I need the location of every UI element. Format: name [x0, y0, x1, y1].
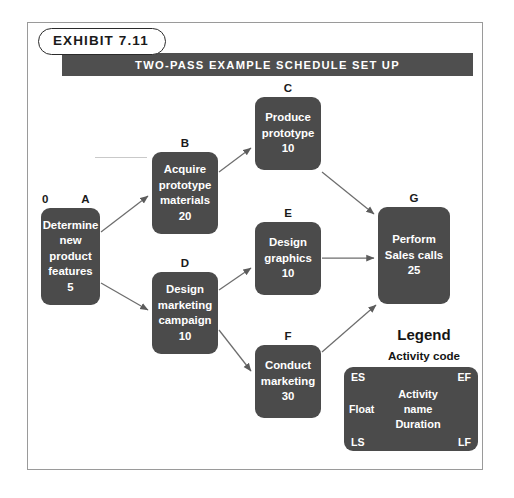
- node-b-name-line-3: materials: [160, 193, 210, 209]
- node-f-name-line-2: marketing: [261, 374, 315, 390]
- legend-center-line-3: Duration: [395, 417, 440, 432]
- node-a-name-line-4: features: [48, 264, 92, 280]
- node-a-es-label: 0: [42, 193, 48, 205]
- node-g-name-line-2: Sales calls: [385, 248, 443, 264]
- node-a-code: A: [56, 193, 115, 205]
- node-c-name-line-2: prototype: [262, 126, 315, 142]
- node-g-duration: 25: [408, 263, 421, 279]
- legend-title: Legend: [368, 326, 480, 343]
- node-c-name-line-1: Produce: [265, 110, 311, 126]
- node-e-name-line-1: Design: [269, 235, 307, 251]
- node-b[interactable]: Acquire prototype materials 20: [152, 152, 218, 234]
- node-a-name-line-1: Determine: [43, 218, 99, 234]
- exhibit-page: EXHIBIT 7.11 TWO-PASS EXAMPLE SCHEDULE S…: [0, 0, 514, 498]
- edge-d-f: [219, 330, 251, 371]
- node-f-name-line-1: Conduct: [265, 358, 311, 374]
- node-g-name-line-1: Perform: [392, 232, 436, 248]
- exhibit-title-bar: TWO-PASS EXAMPLE SCHEDULE SET UP: [62, 53, 473, 76]
- node-f[interactable]: Conduct marketing 30: [255, 345, 321, 418]
- node-d-code: D: [152, 257, 218, 269]
- legend-center-text: Activity name Duration: [344, 367, 478, 451]
- node-g[interactable]: Perform Sales calls 25: [378, 207, 450, 304]
- node-b-code: B: [152, 137, 218, 149]
- exhibit-number-pill: EXHIBIT 7.11: [38, 28, 166, 55]
- exhibit-title: TWO-PASS EXAMPLE SCHEDULE SET UP: [135, 59, 400, 71]
- node-d[interactable]: Design marketing campaign 10: [152, 272, 218, 354]
- node-a[interactable]: Determine new product features 5: [41, 208, 100, 305]
- node-d-duration: 10: [179, 329, 192, 345]
- node-b-name-line-2: prototype: [159, 178, 212, 194]
- node-d-name-line-3: campaign: [158, 313, 211, 329]
- legend-activity-box: ES EF Float LS LF Activity name Duration: [344, 367, 478, 451]
- node-a-duration: 5: [67, 280, 73, 296]
- node-f-code: F: [255, 330, 321, 342]
- edge-d-e: [219, 268, 251, 290]
- node-e-duration: 10: [282, 266, 295, 282]
- node-b-duration: 20: [179, 209, 192, 225]
- stray-rule: [95, 157, 147, 158]
- node-c[interactable]: Produce prototype 10: [255, 97, 321, 170]
- node-b-name-line-1: Acquire: [164, 162, 206, 178]
- node-g-code: G: [378, 192, 450, 204]
- legend-center-line-2: name: [404, 402, 433, 417]
- node-e[interactable]: Design graphics 10: [255, 222, 321, 295]
- edge-c-g: [322, 172, 374, 214]
- edge-a-d: [101, 283, 148, 310]
- node-c-code: C: [255, 82, 321, 94]
- node-f-duration: 30: [282, 389, 295, 405]
- edge-b-c: [219, 148, 251, 172]
- node-e-name-line-2: graphics: [264, 251, 311, 267]
- node-e-code: E: [255, 207, 321, 219]
- legend-subtitle: Activity code: [362, 349, 486, 362]
- node-a-name-line-3: product: [49, 249, 91, 265]
- node-d-name-line-1: Design: [166, 282, 204, 298]
- node-a-name-line-2: new: [59, 233, 81, 249]
- legend-center-line-1: Activity: [398, 387, 438, 402]
- node-c-duration: 10: [282, 141, 295, 157]
- node-d-name-line-2: marketing: [158, 298, 212, 314]
